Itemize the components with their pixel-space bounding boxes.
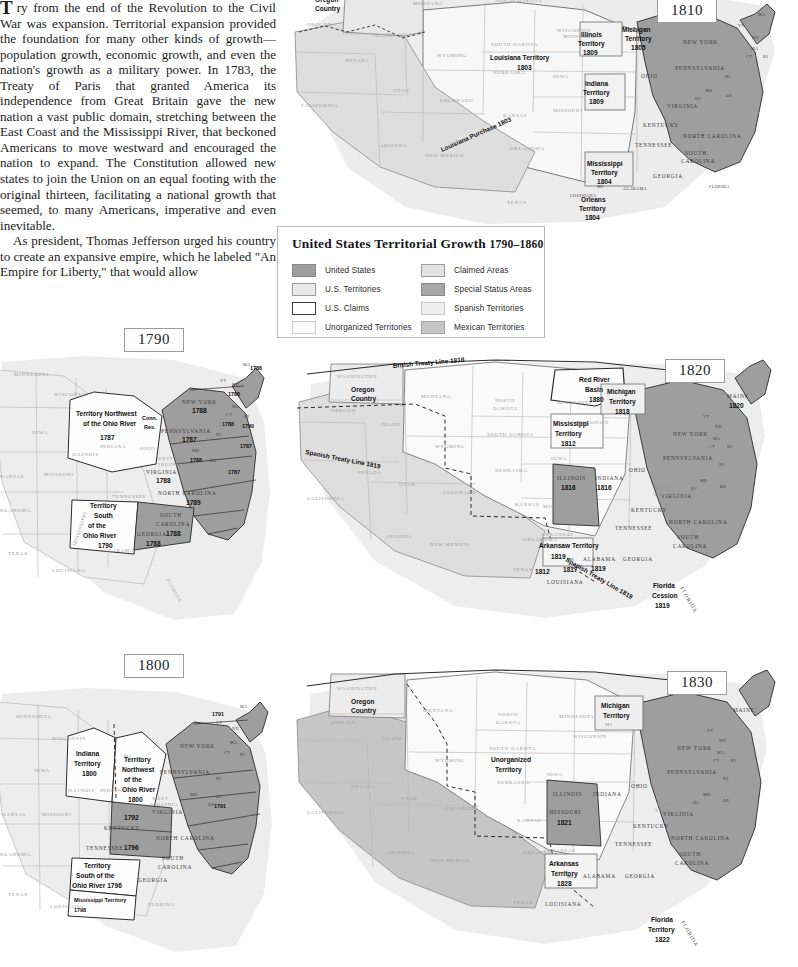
map-1810-label-de: DE	[726, 93, 732, 98]
map-1790-edge-date-3: 1787	[240, 443, 252, 449]
map-1790-label-ohio: OHIO	[140, 446, 155, 451]
map-1830-label-pennsylvania: PENNSYLVANIA	[667, 769, 717, 775]
map-1830-label-new-mexico: NEW MEXICO	[431, 858, 470, 863]
map-1820-label-ms: MS	[567, 557, 574, 562]
map-panel-1790: MINNESOTA WISCONSIN IOWA ILLINOIS INDIAN…	[0, 352, 280, 627]
map-1790-label-kansas: KANSAS	[0, 474, 24, 479]
map-1800-label-territory-northwest-2: Northwest	[122, 766, 155, 773]
map-svg-1810: Oregon Country OREGON IDAHO MONTANA WYOM…	[285, 0, 798, 227]
map-1820-label-nebraska: NEBRASKA	[495, 468, 528, 473]
map-1790-label-ct-date: 1788	[222, 421, 234, 427]
legend-item-special-status-areas: Special Status Areas	[421, 280, 532, 298]
map-1830-label-arkansas-territory: Arkansas	[549, 860, 579, 867]
legend-label-unorganized-territories: Unorganized Territories	[325, 323, 412, 332]
map-1810-label-south-dakota: SOUTH DAKOTA	[491, 42, 538, 47]
year-label-1790: 1790	[124, 328, 184, 352]
map-panel-1820: British Treaty Line 1818 Spanish Treaty …	[295, 356, 798, 626]
map-1810-label-ma: MA	[751, 46, 759, 51]
map-1790-label-north-carolina-date: 1789	[186, 499, 201, 506]
map-1800-label-georgia: GEORGIA	[138, 877, 168, 883]
map-1830-label-michigan-territory: Michigan	[601, 702, 630, 710]
map-1820-label-vt: VT	[703, 414, 709, 419]
map-1830-label-south-carolina: SOUTH	[679, 851, 701, 857]
map-1810-label-virginia: VIRGINIA	[667, 103, 698, 109]
legend-item-spanish-territories: Spanish Territories	[421, 299, 532, 317]
map-1830-label-west-virginia: WEST	[657, 802, 673, 807]
map-1810-label-iowa: IOWA	[553, 74, 569, 79]
map-1820-label-florida-cession-2: Cession	[652, 592, 678, 599]
map-1820-label-wyoming: WYOMING	[435, 444, 465, 449]
map-1820-label-mississippi-territory-2: Territory	[555, 430, 582, 438]
map-1820-label-nevada: NEVADA	[357, 470, 382, 475]
map-1820-label-texas: TEXAS	[513, 567, 533, 572]
map-1820-label-nj: NJ	[719, 462, 724, 467]
map-1830-label-idaho: IDAHO	[383, 736, 403, 741]
map-1830-label-nevada: NEVADA	[351, 784, 376, 789]
map-1830-label-wyoming: WYOMING	[435, 758, 465, 763]
map-1820-label-arkansaw-territory: Arkansaw Territory	[539, 542, 599, 550]
legend-label-mexican-territories: Mexican Territories	[454, 323, 524, 332]
map-1820-label-north-dakota-2: DAKOTA	[493, 406, 518, 411]
map-1820-label-nh: NH	[715, 424, 722, 429]
map-1790-label-territory-northwest-date: 1787	[100, 434, 115, 441]
legend-label-special-status-areas: Special Status Areas	[454, 285, 532, 294]
map-1790-label-new-york: NEW YORK	[182, 399, 217, 405]
map-1820-label-idaho: IDAHO	[381, 422, 401, 427]
map-1820-label-ohio: OHIO	[629, 467, 646, 473]
map-1830-label-florida-territory: Florida	[651, 916, 673, 923]
legend-label-us-claims: U.S. Claims	[325, 304, 369, 313]
map-1800-label-minnesota: MINNESOTA	[16, 714, 51, 719]
map-1790-label-md: MD	[192, 448, 200, 453]
map-1830-label-washington: WASHINGTON	[337, 686, 377, 691]
map-1830-label-texas: TEXAS	[513, 900, 533, 905]
map-1810-label-michigan-territory: Michigan	[622, 26, 651, 34]
map-1810-label-california: CALIFORNIA	[301, 103, 338, 108]
map-1830-label-tennessee: TENNESSEE	[615, 841, 652, 847]
legend-item-mexican-territories: Mexican Territories	[421, 318, 532, 336]
legend-swatch-claimed-areas	[421, 264, 445, 277]
legend-label-us-territories: U.S. Territories	[325, 285, 381, 294]
map-1820-label-dc: DC	[691, 486, 698, 491]
map-1810-label-louisiana: LOUISIANA	[570, 193, 596, 198]
legend-title: United States Territorial Growth 1790–18…	[292, 236, 530, 252]
map-1820-label-new-mexico: NEW MEXICO	[430, 542, 469, 547]
map-1830-label-ma: MA	[717, 750, 725, 755]
map-1820-label-florida-cession: Florida	[653, 582, 675, 589]
map-1830-label-alabama: ALABAMA	[583, 873, 616, 879]
map-1800-label-florida: FLORIDA	[148, 902, 175, 907]
map-1820-label-oregon-country-2: Country	[351, 395, 377, 403]
map-1820-label-alabama: ALABAMA	[583, 556, 616, 562]
map-1810-label-nh: NH	[752, 35, 759, 40]
map-1810-label-missouri: MISSOURI	[553, 108, 583, 113]
map-1810-label-oregon-country: Oregon	[315, 0, 338, 4]
map-1810-label-oregon: OREGON	[307, 22, 332, 27]
map-1790-label-louisiana: LOUISIANA	[52, 568, 86, 573]
year-label-1830: 1830	[667, 671, 727, 695]
map-1830-label-michigan-territory-2: Territory	[603, 712, 630, 720]
map-1830-label-nh: NH	[719, 738, 726, 743]
map-1790-label-territory-south-date: 1790	[98, 542, 113, 549]
map-1800-label-territory-northwest-date: 1800	[128, 796, 143, 803]
map-1810-label-michigan-territory-date: 1805	[631, 44, 646, 51]
map-1820-label-illinois: ILLINOIS	[557, 475, 586, 481]
map-1820-label-red-river-basin-2: Basin	[585, 386, 603, 393]
map-1790-label-virginia: VIRGINIA	[146, 469, 177, 475]
legend-title-years: 1790–1860	[490, 238, 544, 251]
map-1810-label-florida: FLORIDA	[709, 184, 730, 189]
map-1790-label-tennessee: TENNESSEE	[112, 494, 146, 499]
map-1810-label-montana: MONTANA	[413, 1, 443, 6]
map-1830-label-north-carolina: NORTH CAROLINA	[671, 835, 730, 841]
map-1790-label-oklahoma: OKLAHOMA	[0, 508, 31, 513]
map-1800-label-territory-south-3: Ohio River 1796	[72, 882, 122, 889]
map-1810-label-new-mexico: NEW MEXICO	[425, 153, 464, 158]
map-1790-label-territory-northwest-2: of the Ohio River	[83, 420, 137, 427]
map-1820-label-west-virginia: WEST	[655, 486, 671, 491]
legend-item-claimed-areas: Claimed Areas	[421, 261, 532, 279]
legend-item-us-claims: U.S. Claims	[292, 299, 411, 317]
map-1810-label-utah: UTAH	[393, 88, 409, 93]
map-1830-label-unorganized-territory-2: Territory	[495, 766, 522, 774]
map-1820-label-michigan-territory: Michigan	[607, 388, 636, 396]
map-1800-label-north-carolina: NORTH CAROLINA	[156, 835, 215, 841]
map-1810-label-ma-top: MA	[758, 12, 766, 17]
map-1820-label-california: CALIFORNIA	[307, 496, 344, 501]
